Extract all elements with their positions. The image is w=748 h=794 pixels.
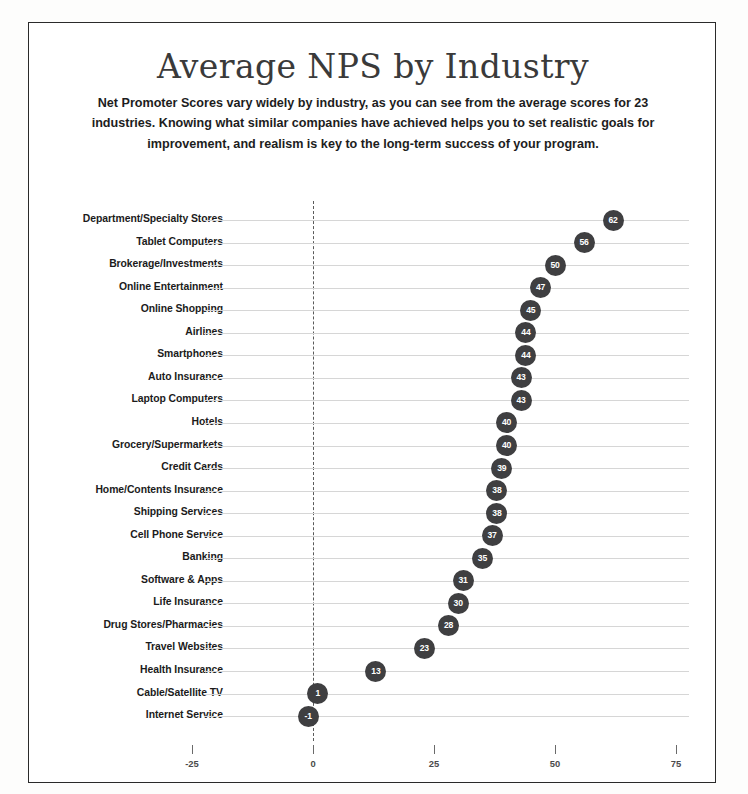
chart-row: Department/Specialty Stores62 — [29, 220, 717, 221]
x-axis-tick — [313, 745, 314, 754]
gridline — [204, 423, 689, 424]
chart-row: Banking35 — [29, 558, 717, 559]
data-point-marker[interactable]: 28 — [438, 615, 459, 636]
data-point-marker[interactable]: 47 — [530, 277, 551, 298]
data-point-marker[interactable]: 45 — [520, 300, 541, 321]
chart-row: Travel Websites23 — [29, 648, 717, 649]
x-axis-tick-label: 0 — [283, 758, 343, 769]
data-point-marker[interactable]: 40 — [496, 412, 517, 433]
chart-row: Brokerage/Investments50 — [29, 265, 717, 266]
data-point-marker[interactable]: -1 — [298, 706, 319, 727]
category-label: Cable/Satellite TV — [3, 687, 223, 698]
gridline — [204, 310, 689, 311]
category-label: Hotels — [3, 416, 223, 427]
x-axis-tick — [555, 745, 556, 754]
category-label: Shipping Services — [3, 506, 223, 517]
gridline — [204, 243, 689, 244]
category-label: Home/Contents Insurance — [3, 484, 223, 495]
chart-row: Cable/Satellite TV1 — [29, 694, 717, 695]
chart-row: Hotels40 — [29, 423, 717, 424]
chart-row: Home/Contents Insurance38 — [29, 491, 717, 492]
category-label: Department/Specialty Stores — [3, 213, 223, 224]
category-label: Tablet Computers — [3, 236, 223, 247]
data-point-marker[interactable]: 38 — [486, 480, 507, 501]
gridline — [204, 355, 689, 356]
data-point-marker[interactable]: 23 — [414, 638, 435, 659]
x-axis-tick — [434, 745, 435, 754]
chart-row: Internet Service-1 — [29, 716, 717, 717]
data-point-marker[interactable]: 56 — [574, 232, 595, 253]
chart-row: Cell Phone Service37 — [29, 536, 717, 537]
zero-reference-line — [313, 201, 314, 741]
chart-row: Auto Insurance43 — [29, 378, 717, 379]
gridline — [204, 265, 689, 266]
category-label: Credit Cards — [3, 461, 223, 472]
category-label: Airlines — [3, 326, 223, 337]
gridline — [204, 603, 689, 604]
category-label: Banking — [3, 551, 223, 562]
chart-frame: Average NPS by Industry Net Promoter Sco… — [28, 22, 716, 783]
category-label: Internet Service — [3, 709, 223, 720]
gridline — [204, 671, 689, 672]
x-axis-tick-label: 50 — [525, 758, 585, 769]
chart-row: Credit Cards39 — [29, 468, 717, 469]
gridline — [204, 694, 689, 695]
data-point-marker[interactable]: 37 — [482, 525, 503, 546]
category-label: Auto Insurance — [3, 371, 223, 382]
chart-row: Software & Apps31 — [29, 581, 717, 582]
gridline — [204, 648, 689, 649]
data-point-marker[interactable]: 35 — [472, 548, 493, 569]
data-point-marker[interactable]: 30 — [448, 593, 469, 614]
gridline — [204, 558, 689, 559]
gridline — [204, 333, 689, 334]
chart-row: Drug Stores/Pharmacies28 — [29, 626, 717, 627]
chart-row: Airlines44 — [29, 333, 717, 334]
gridline — [204, 491, 689, 492]
scatter-plot: Department/Specialty Stores62Tablet Comp… — [29, 23, 717, 784]
data-point-marker[interactable]: 43 — [511, 367, 532, 388]
category-label: Brokerage/Investments — [3, 258, 223, 269]
data-point-marker[interactable]: 43 — [511, 390, 532, 411]
category-label: Travel Websites — [3, 641, 223, 652]
data-point-marker[interactable]: 44 — [515, 345, 536, 366]
gridline — [204, 581, 689, 582]
data-point-marker[interactable]: 13 — [365, 661, 386, 682]
chart-row: Grocery/Supermarkets40 — [29, 446, 717, 447]
data-point-marker[interactable]: 44 — [515, 322, 536, 343]
gridline — [204, 513, 689, 514]
category-label: Drug Stores/Pharmacies — [3, 619, 223, 630]
gridline — [204, 468, 689, 469]
gridline — [204, 716, 689, 717]
category-label: Smartphones — [3, 348, 223, 359]
chart-row: Smartphones44 — [29, 355, 717, 356]
data-point-marker[interactable]: 62 — [603, 210, 624, 231]
category-label: Software & Apps — [3, 574, 223, 585]
chart-row: Life Insurance30 — [29, 603, 717, 604]
gridline — [204, 446, 689, 447]
category-label: Life Insurance — [3, 596, 223, 607]
data-point-marker[interactable]: 39 — [491, 458, 512, 479]
category-label: Health Insurance — [3, 664, 223, 675]
chart-row: Health Insurance13 — [29, 671, 717, 672]
gridline — [204, 378, 689, 379]
category-label: Online Shopping — [3, 303, 223, 314]
x-axis-tick-label: 25 — [404, 758, 464, 769]
gridline — [204, 400, 689, 401]
x-axis-tick-label: 75 — [646, 758, 706, 769]
category-label: Online Entertainment — [3, 281, 223, 292]
gridline — [204, 288, 689, 289]
page-canvas: Average NPS by Industry Net Promoter Sco… — [0, 0, 748, 794]
data-point-marker[interactable]: 1 — [307, 683, 328, 704]
x-axis-tick — [192, 745, 193, 754]
data-point-marker[interactable]: 31 — [453, 570, 474, 591]
chart-row: Laptop Computers43 — [29, 400, 717, 401]
chart-row: Online Entertainment47 — [29, 288, 717, 289]
x-axis-tick — [676, 745, 677, 754]
data-point-marker[interactable]: 38 — [486, 503, 507, 524]
chart-row: Online Shopping45 — [29, 310, 717, 311]
chart-row: Tablet Computers56 — [29, 243, 717, 244]
data-point-marker[interactable]: 50 — [545, 255, 566, 276]
category-label: Laptop Computers — [3, 393, 223, 404]
data-point-marker[interactable]: 40 — [496, 435, 517, 456]
category-label: Grocery/Supermarkets — [3, 439, 223, 450]
